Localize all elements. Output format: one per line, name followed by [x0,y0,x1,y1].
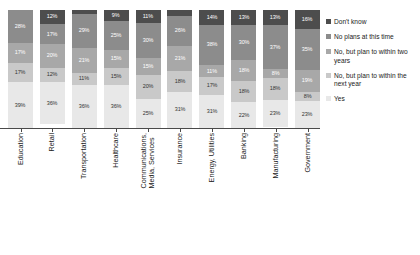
bar-segment-value: 21% [79,57,90,62]
bar-segment-value: 12% [47,14,58,19]
bar-segment: 9% [104,10,129,21]
bar-segment: 18% [231,81,256,102]
bar-segment: 15% [136,58,161,76]
bar-segment: 18% [263,78,288,99]
bar-segment-value: 9% [112,13,120,18]
bar-segment-value: 17% [15,50,26,55]
bar-segment-value: 25% [143,111,154,116]
legend-item[interactable]: No, but plan to within two years [326,48,418,64]
axis-tick [244,128,245,132]
bar-segment: 12% [40,68,65,82]
bar-segment-value: 30% [238,40,249,45]
bar-segment: 18% [167,71,192,92]
axis-tick [21,128,22,132]
bar-segment-value: 18% [238,89,249,94]
bar-segment-value: 11% [79,76,89,81]
bar-segment-value: 26% [175,28,186,33]
bar-column: 14%38%11%17%31% [199,10,224,128]
bar-segment: 20% [136,75,161,98]
bar-column: 13%37%8%18%23% [263,10,288,128]
bar-segment-value: 20% [47,53,58,58]
bar-column: 29%21%11%36% [72,10,97,128]
bar-segment-value: 19% [302,78,313,83]
bar-segment: 12% [40,10,65,24]
bar-column: 13%30%18%18%22% [231,10,256,128]
category-label-text: Education [16,133,24,165]
bar-segment-value: 17% [15,70,26,75]
bar-segment-value: 12% [47,72,58,77]
bar-segment-value: 29% [79,28,90,33]
bar-segment-value: 36% [111,104,122,109]
axis-tick [276,128,277,132]
axis-tick [212,128,213,132]
legend-swatch-icon [326,49,331,54]
bar-segment-value: 15% [143,64,154,69]
legend-swatch-icon [326,19,331,24]
bar-segment-value: 16% [302,17,313,22]
axis-tick [84,128,85,132]
bar-segment-value: 22% [238,112,249,117]
bar-segment: 39% [8,82,33,128]
bar-segment-value: 35% [302,46,313,51]
category-label: Retail [40,133,65,239]
bar-segment-value: 13% [238,15,249,20]
chart-legend: Don't knowNo plans at this timeNo, but p… [326,18,418,110]
bar-segment: 26% [167,16,192,46]
category-label-text: Insurance [176,133,184,165]
bar-segment-value: 18% [175,79,186,84]
bar-group: 28%17%17%39%12%17%20%12%36%29%21%11%36%9… [8,10,320,128]
bar-segment: 15% [104,68,129,86]
bar-segment: 21% [167,46,192,71]
legend-item[interactable]: No, but plan to within the next year [326,72,418,88]
axis-tick [308,128,309,132]
bar-segment: 37% [263,25,288,69]
legend-item[interactable]: Yes [326,95,418,103]
bar-column: 11%30%15%20%25% [136,10,161,128]
bar-segment-value: 11% [143,14,153,19]
bar-segment: 8% [295,92,320,101]
category-label: Education [8,133,33,239]
bar-segment-value: 8% [272,71,280,76]
bar-segment: 21% [72,48,97,73]
bar-segment: 23% [263,100,288,127]
bar-segment-value: 11% [207,68,217,73]
bar-segment: 20% [40,44,65,68]
bar-segment: 28% [8,10,33,43]
bar-segment: 15% [104,50,129,68]
bar-segment: 8% [263,69,288,78]
bar-segment: 36% [40,82,65,124]
category-label: Communications,Media, Services [136,133,161,239]
bar-segment-value: 21% [175,56,186,61]
bar-segment: 31% [199,95,224,128]
bar-segment: 11% [72,73,97,86]
legend-item[interactable]: No plans at this time [326,33,418,41]
category-label: Transportation [72,133,97,239]
bar-segment: 36% [104,85,129,127]
legend-label: No plans at this time [334,33,394,41]
bar-segment-value: 37% [270,44,281,49]
bar-segment: 30% [231,25,256,60]
legend-swatch-icon [326,34,331,39]
axis-tick [116,128,117,132]
legend-label: No, but plan to within the next year [334,72,418,88]
bar-segment: 17% [8,43,33,63]
bar-segment: 25% [104,21,129,51]
bar-segment-value: 25% [111,33,122,38]
category-label: Banking [231,133,256,239]
plot-area: 28%17%17%39%12%17%20%12%36%29%21%11%36%9… [8,10,320,128]
bar-segment-value: 39% [15,102,26,107]
bar-segment: 31% [167,92,192,128]
legend-item[interactable]: Don't know [326,18,418,26]
bar-segment-value: 8% [304,94,312,99]
bar-column: 12%17%20%12%36% [40,10,65,128]
category-label-text: Energy, Utilities [208,133,216,182]
legend-swatch-icon [326,96,331,101]
bar-segment-value: 17% [47,31,58,36]
bar-segment: 38% [199,25,224,65]
bar-segment: 18% [231,60,256,81]
bar-segment: 30% [136,23,161,58]
bar-segment-value: 36% [79,104,90,109]
bar-segment: 13% [231,10,256,25]
category-label-text: Manufacturing [271,133,279,179]
bar-segment-value: 31% [206,109,217,114]
